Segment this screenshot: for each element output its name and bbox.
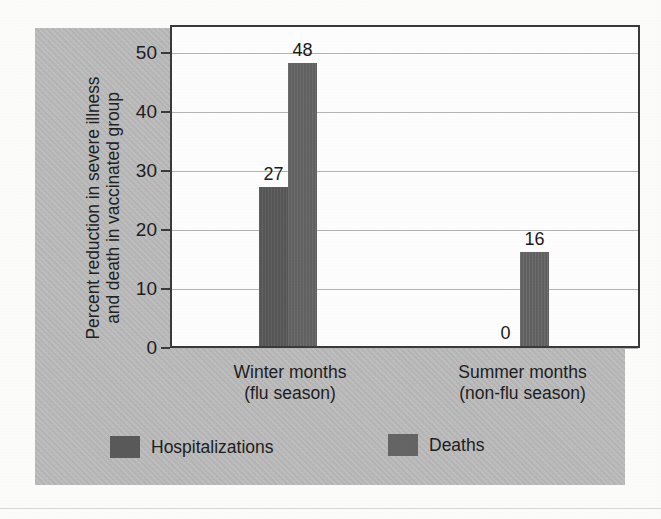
- x-axis-label-summer-line-1: Summer months: [420, 362, 625, 383]
- y-tick-label-20: 20: [136, 219, 157, 241]
- legend-label-hospitalizations: Hospitalizations: [151, 437, 274, 458]
- chart-figure-panel: Percent reduction in severe illness and …: [35, 28, 625, 485]
- legend-item-deaths: Deaths: [388, 434, 484, 456]
- gridline-40: [172, 112, 638, 113]
- y-axis-title-line-1: Percent reduction in severe illness: [84, 76, 104, 339]
- legend-swatch-deaths: [388, 434, 418, 456]
- gridline-30: [172, 171, 638, 172]
- x-axis-label-summer: Summer months (non-flu season): [420, 362, 625, 404]
- x-axis-label-winter-line-1: Winter months: [195, 362, 385, 383]
- bar-value-summer-deaths: 16: [515, 229, 554, 250]
- chart-legend: Hospitalizations Deaths: [35, 432, 625, 466]
- gridline-50: [172, 53, 638, 54]
- legend-label-deaths: Deaths: [429, 435, 484, 456]
- y-tick-30: [161, 170, 170, 172]
- gridline-10: [172, 289, 638, 290]
- bar-value-winter-deaths: 48: [283, 40, 322, 61]
- y-tick-label-0: 0: [146, 337, 157, 359]
- y-axis-title: Percent reduction in severe illness and …: [74, 43, 134, 373]
- x-axis-label-summer-line-2: (non-flu season): [420, 383, 625, 404]
- legend-item-hospitalizations: Hospitalizations: [110, 436, 274, 458]
- gridline-0: [172, 348, 638, 349]
- page-bottom-rule: [0, 508, 661, 509]
- y-tick-50: [161, 52, 170, 54]
- figure-screenshot: Percent reduction in severe illness and …: [0, 0, 661, 519]
- y-tick-label-30: 30: [136, 160, 157, 182]
- y-tick-40: [161, 111, 170, 113]
- y-tick-label-10: 10: [136, 278, 157, 300]
- y-tick-10: [161, 288, 170, 290]
- bar-winter-deaths: [288, 63, 317, 346]
- bar-value-winter-hospitalizations: 27: [254, 164, 293, 185]
- y-tick-label-50: 50: [136, 42, 157, 64]
- plot-area: 0 10 20 30 40 50 27 48 0 16: [170, 25, 640, 348]
- legend-swatch-hospitalizations: [110, 436, 140, 458]
- bar-winter-hospitalizations: [259, 187, 288, 346]
- gridline-20: [172, 230, 638, 231]
- y-axis-title-line-2: and death in vaccinated group: [104, 92, 124, 324]
- y-tick-20: [161, 229, 170, 231]
- y-tick-0: [161, 347, 170, 349]
- x-axis-label-winter: Winter months (flu season): [195, 362, 385, 404]
- x-axis-label-winter-line-2: (flu season): [195, 383, 385, 404]
- bar-value-summer-hospitalizations: 0: [486, 323, 525, 344]
- y-tick-label-40: 40: [136, 101, 157, 123]
